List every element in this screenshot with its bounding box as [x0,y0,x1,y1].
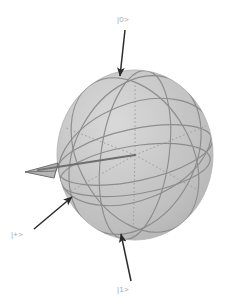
ket-one-label: |1> [117,286,129,294]
ket-one-arrow [121,234,131,281]
ket-zero-arrow [120,30,125,76]
ket-zero-label: |0> [117,16,129,24]
bloch-sphere-canvas [0,0,231,307]
ket-plus-label: |+> [11,231,23,239]
bloch-sphere-figure: |0> |1> |+> [0,0,231,307]
ket-plus-arrow [34,197,72,229]
